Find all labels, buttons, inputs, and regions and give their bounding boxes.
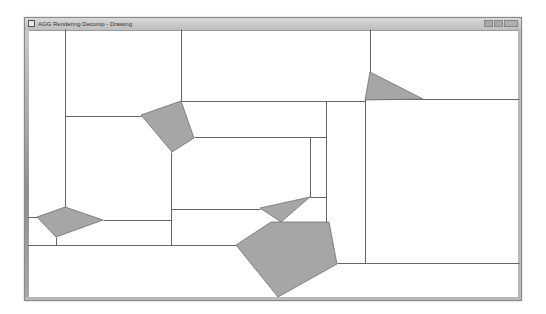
polygon-small-triangle xyxy=(260,197,310,222)
polygon-lower-left xyxy=(37,207,103,237)
polygon-upper-right-triangle xyxy=(365,72,423,100)
polygon-upper-left xyxy=(141,101,194,152)
drawing-canvas[interactable] xyxy=(0,0,546,314)
polygon-large-pentagon xyxy=(236,222,337,297)
